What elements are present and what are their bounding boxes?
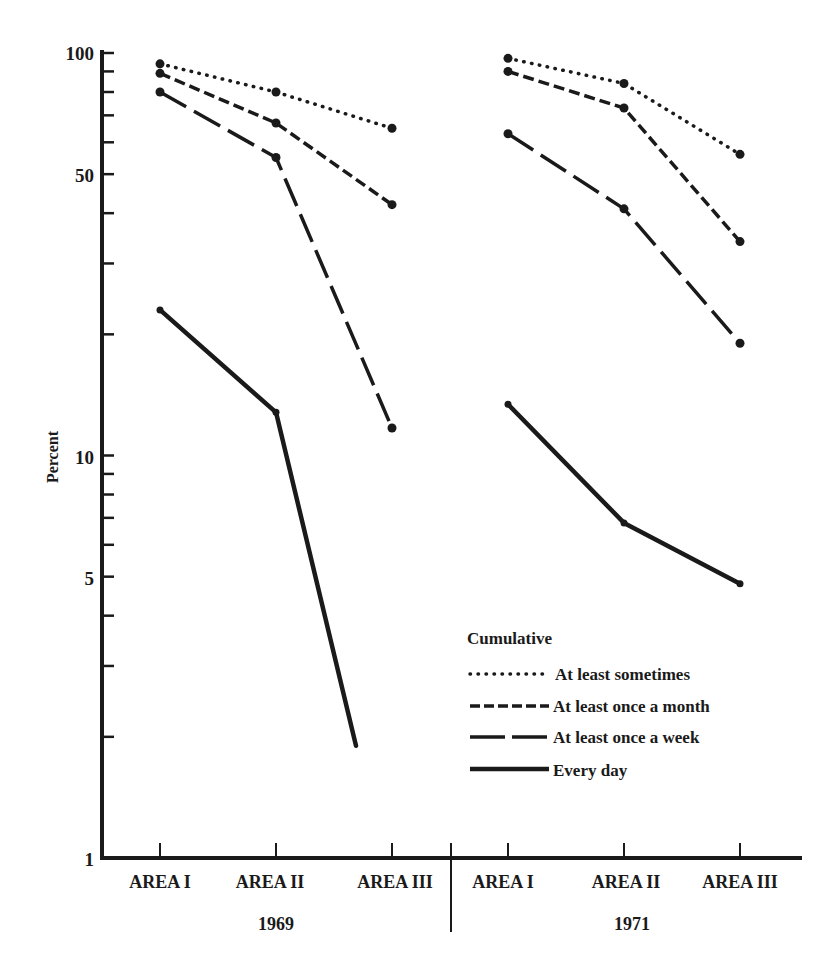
x-label-1971-area-1: AREA I — [472, 872, 534, 892]
data-point-marker-icon — [736, 237, 745, 246]
legend-item-month: At least once a month — [470, 697, 710, 716]
legend-item-week: At least once a week — [470, 728, 700, 747]
series-line-1971 — [508, 134, 740, 344]
x-label-1969-area-3: AREA III — [357, 872, 433, 892]
group-label-1971: 1971 — [614, 914, 650, 934]
data-point-marker-icon — [272, 119, 281, 128]
log-line-chart: 100 50 10 5 1 Percent AREA I AREA II ARE… — [0, 0, 836, 973]
x-label-1971-area-3: AREA III — [702, 872, 778, 892]
y-axis: 100 50 10 5 1 Percent — [44, 43, 114, 870]
legend-title: Cumulative — [467, 629, 552, 648]
data-point-marker-icon — [736, 339, 745, 348]
series-line-1969 — [160, 92, 392, 428]
plot-area — [156, 54, 745, 746]
legend-item-sometimes: At least sometimes — [470, 665, 690, 684]
data-point-marker-icon — [736, 150, 745, 159]
x-label-1969-area-1: AREA I — [129, 872, 191, 892]
data-point-marker-icon — [273, 409, 280, 416]
series-long-dash — [156, 88, 745, 433]
data-point-marker-icon — [504, 129, 513, 138]
y-axis-title: Percent — [44, 430, 61, 483]
x-label-1971-area-2: AREA II — [592, 872, 661, 892]
legend-item-every-day: Every day — [470, 761, 628, 780]
data-point-marker-icon — [620, 104, 629, 113]
data-point-marker-icon — [504, 67, 513, 76]
data-point-marker-icon — [157, 306, 164, 313]
y-tick-label-1: 1 — [85, 849, 95, 870]
data-point-marker-icon — [505, 401, 512, 408]
data-point-marker-icon — [620, 204, 629, 213]
data-point-marker-icon — [156, 59, 165, 68]
legend-label: At least once a month — [553, 697, 710, 716]
legend-label: At least sometimes — [555, 665, 690, 684]
data-point-marker-icon — [388, 200, 397, 209]
y-tick-label-5: 5 — [85, 568, 95, 589]
data-point-marker-icon — [388, 424, 397, 433]
y-tick-label-100: 100 — [66, 43, 95, 64]
data-point-marker-icon — [156, 88, 165, 97]
data-point-marker-icon — [737, 580, 744, 587]
y-tick-label-10: 10 — [75, 447, 94, 468]
data-point-marker-icon — [620, 79, 629, 88]
x-axis: AREA I AREA II AREA III AREA I AREA II A… — [100, 843, 802, 934]
y-tick-label-50: 50 — [75, 165, 94, 186]
data-point-marker-icon — [504, 54, 513, 63]
group-label-1969: 1969 — [258, 914, 294, 934]
data-point-marker-icon — [388, 124, 397, 133]
data-point-marker-icon — [156, 69, 165, 78]
legend-label: At least once a week — [553, 728, 700, 747]
x-label-1969-area-2: AREA II — [236, 872, 305, 892]
legend: Cumulative At least sometimes At least o… — [467, 629, 710, 780]
data-point-marker-icon — [272, 88, 281, 97]
data-point-marker-icon — [621, 519, 628, 526]
data-point-marker-icon — [272, 153, 281, 162]
legend-label: Every day — [553, 761, 628, 780]
series-short-dash — [156, 67, 745, 246]
series-line-1969 — [160, 310, 356, 746]
series-line-1971 — [508, 404, 740, 583]
